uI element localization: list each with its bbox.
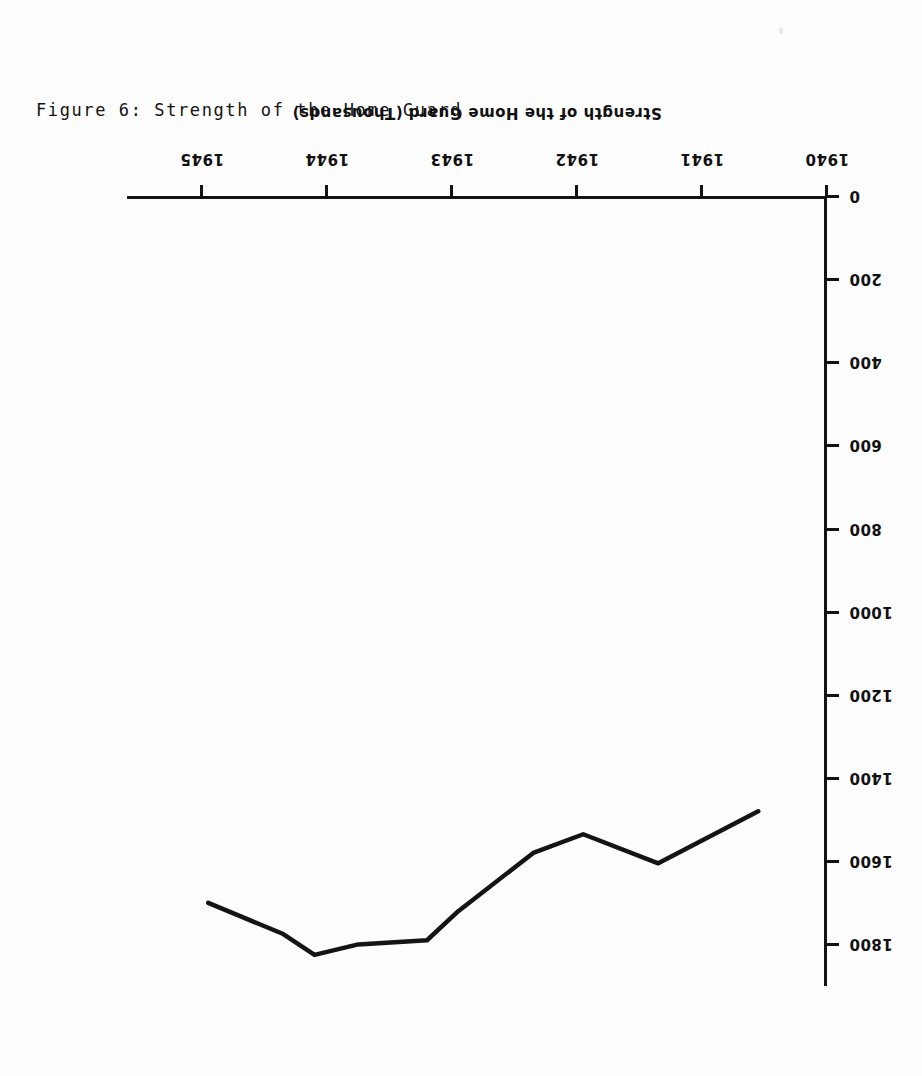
y-axis-tick-label: 800 xyxy=(849,520,882,538)
y-axis-tick xyxy=(826,278,839,281)
y-axis-tick xyxy=(826,195,839,198)
y-axis-tick xyxy=(826,528,839,531)
plot-area: 194019411942194319441945 020040060080010… xyxy=(127,196,827,986)
x-axis-tick-label: 1944 xyxy=(305,150,349,168)
y-axis-tick-label: 600 xyxy=(849,436,882,454)
y-axis-tick xyxy=(826,611,839,614)
y-axis-tick-label: 1800 xyxy=(849,935,893,953)
y-axis-tick-label: 1000 xyxy=(849,603,893,621)
y-axis-tick-label: 200 xyxy=(849,270,882,288)
y-axis-tick-label: 1400 xyxy=(849,769,893,787)
figure-root: Figure 6: Strength of the Home Guard 194… xyxy=(0,0,922,1076)
y-axis-tick xyxy=(826,694,839,697)
y-axis-tick xyxy=(826,777,839,780)
y-axis-tick xyxy=(826,444,839,447)
y-axis-title: Strength of the Home Guard (Thousands) xyxy=(127,104,827,122)
y-axis-tick-label: 1200 xyxy=(849,686,893,704)
x-axis-tick-label: 1942 xyxy=(555,150,599,168)
y-axis-tick-label: 0 xyxy=(849,187,860,205)
plot-rotator: 194019411942194319441945 020040060080010… xyxy=(0,0,922,1076)
y-axis-tick xyxy=(826,361,839,364)
y-axis-tick xyxy=(826,860,839,863)
y-axis-tick xyxy=(826,943,839,946)
x-axis-tick-label: 1941 xyxy=(680,150,724,168)
y-axis-tick-label: 1600 xyxy=(849,852,893,870)
data-series-line xyxy=(127,196,827,986)
x-axis-tick-label: 1945 xyxy=(180,150,224,168)
x-axis-tick-label: 1943 xyxy=(430,150,474,168)
y-axis-tick-label: 400 xyxy=(849,353,882,371)
x-axis-tick-label: 1940 xyxy=(805,150,849,168)
